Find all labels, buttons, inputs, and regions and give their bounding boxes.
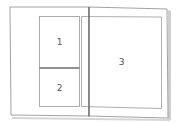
region-3-label: 3 [119,58,125,67]
region-1-label: 1 [57,37,63,46]
book-outline [0,0,177,123]
left-page [10,7,89,116]
right-shadow [168,10,171,120]
region-2-label: 2 [57,84,63,93]
right-page [89,7,168,118]
book-spread-diagram: 1 2 3 [0,0,177,123]
